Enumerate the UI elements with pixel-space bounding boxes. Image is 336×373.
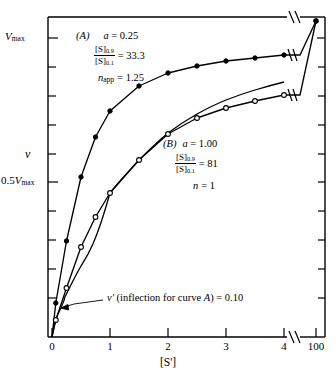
x-tick-label-0: 0 [44,341,60,352]
annotation-a-ratio: [S]0.9 [S]0.1 = 33.3 [94,44,145,68]
curve-b-n-value: = 1 [201,178,215,193]
y-axis-title: v [25,148,30,160]
curve-b-ratio-value: = 81 [199,156,218,171]
curve-b-a-symbol: a [182,138,187,149]
right-axis-ticks [317,38,325,298]
annotation-inflection: v′ (inflection for curve A) = 0.10 [107,293,243,304]
top-axis-break-icon [289,11,300,23]
curve-b-ratio-numerator: [S]0.9 [175,152,196,164]
inflection-leader-arrow [61,300,103,310]
curve-a-a-value: = 0.25 [111,30,138,41]
annotation-a-line1: (A) a = 0.25 [76,28,145,43]
curve-b-ratio-fraction: [S]0.9 [S]0.1 [175,152,196,176]
curve-b-n-symbol: n [193,178,198,193]
x-tick-label-4: 4 [276,341,292,352]
curve-a-n-sub: app [103,75,114,84]
x-tick-label-100: 100 [304,341,328,352]
curve-a-ratio-numerator: [S]0.9 [94,44,115,56]
y-tick-label-half-vmax: 0.5Vmax [1,175,34,187]
curve-a-caption: (A) [76,28,89,43]
figure-container: Vmax 0.5Vmax v 0 1 2 3 4 100 [S'] (A) a … [0,0,336,373]
annotation-b-n: n = 1 [193,178,218,193]
x-axis-title: [S'] [160,357,176,369]
inflection-text-end: ) = 0.10 [210,292,243,303]
annotation-a-napp: napp = 1.25 [98,70,145,86]
curve-b-a-value: = 1.00 [190,138,217,149]
curve-a-ratio-denominator: [S]0.1 [94,56,115,67]
annotation-curve-b: (B) a = 1.00 [S]0.9 [S]0.1 = 81 n = 1 [163,136,218,193]
curve-a-n-value: = 1.25 [117,70,144,85]
curve-a-ratio-fraction: [S]0.9 [S]0.1 [94,44,115,68]
annotation-b-ratio: [S]0.9 [S]0.1 = 81 [175,152,218,176]
x-tick-label-1: 1 [102,341,118,352]
curve-a-ratio-value: = 33.3 [118,48,145,63]
y-tick-label-vmax: Vmax [5,31,25,43]
curve-b-ratio-denominator: [S]0.1 [175,164,196,175]
y-axis-ticks [48,38,58,298]
x-axis-ticks [52,328,316,337]
inflection-symbol: v′ [107,292,114,303]
annotation-b-line1: (B) a = 1.00 [163,136,218,151]
curve-b-markers [53,93,286,323]
x-tick-label-3: 3 [218,341,234,352]
annotation-curve-a: (A) a = 0.25 [S]0.9 [S]0.1 = 33.3 napp =… [76,28,145,86]
curve-a-a-symbol: a [103,30,108,41]
inflection-text: (inflection for curve [114,292,204,303]
curve-b-caption: (B) [163,136,176,151]
x-tick-label-2: 2 [160,341,176,352]
